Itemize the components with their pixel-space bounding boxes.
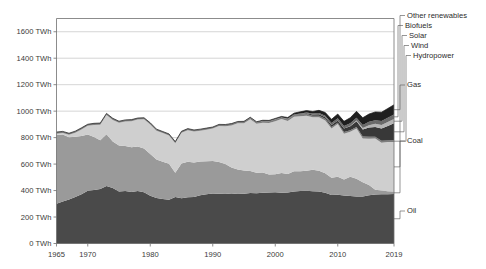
x-tick-label: 1980 xyxy=(142,250,159,259)
y-axis-tick-labels: 0 TWh200 TWh400 TWh600 TWh800 TWh1000 TW… xyxy=(17,27,57,248)
chart-canvas: 0 TWh200 TWh400 TWh600 TWh800 TWh1000 TW… xyxy=(0,0,486,269)
x-tick-label: 2019 xyxy=(386,250,403,259)
legend-label-other-renewables[interactable]: Other renewables xyxy=(407,11,467,20)
legend-label-gas[interactable]: Gas xyxy=(407,80,421,89)
x-tick-label: 1990 xyxy=(204,250,221,259)
y-tick-label: 400 TWh xyxy=(21,186,52,195)
stacked-areas-group xyxy=(57,105,395,244)
legend-group: Other renewablesBiofuelsSolarWindHydropo… xyxy=(394,11,467,219)
x-tick-label: 1970 xyxy=(79,250,96,259)
y-tick-label: 200 TWh xyxy=(21,213,52,222)
legend-label-biofuels[interactable]: Biofuels xyxy=(405,21,432,30)
legend-leader-line-gas xyxy=(394,85,405,167)
legend-label-solar[interactable]: Solar xyxy=(409,31,427,40)
legend-leader-line-hydropower xyxy=(394,56,411,142)
x-tick-label: 1965 xyxy=(48,250,65,259)
x-axis-tick-labels: 1965197019801990200020102019 xyxy=(48,244,402,259)
x-tick-label: 2000 xyxy=(267,250,284,259)
energy-stacked-area-chart: 0 TWh200 TWh400 TWh600 TWh800 TWh1000 TW… xyxy=(0,0,486,269)
legend-leader-line-other-renewables xyxy=(394,16,405,110)
legend-leader-line-oil xyxy=(394,211,405,219)
y-tick-label: 1200 TWh xyxy=(17,80,52,89)
y-tick-label: 1400 TWh xyxy=(17,54,52,63)
legend-label-coal[interactable]: Coal xyxy=(407,136,423,145)
legend-label-hydropower[interactable]: Hydropower xyxy=(413,51,454,60)
legend-leader-line-biofuels xyxy=(394,26,403,117)
legend-label-oil[interactable]: Oil xyxy=(407,206,417,215)
legend-leader-line-solar xyxy=(394,36,407,122)
legend-label-wind[interactable]: Wind xyxy=(411,41,428,50)
y-tick-label: 0 TWh xyxy=(29,239,51,248)
y-tick-label: 800 TWh xyxy=(21,133,52,142)
x-tick-label: 2010 xyxy=(329,250,346,259)
y-tick-label: 1000 TWh xyxy=(17,107,52,116)
y-tick-label: 1600 TWh xyxy=(17,27,52,36)
y-tick-label: 600 TWh xyxy=(21,160,52,169)
